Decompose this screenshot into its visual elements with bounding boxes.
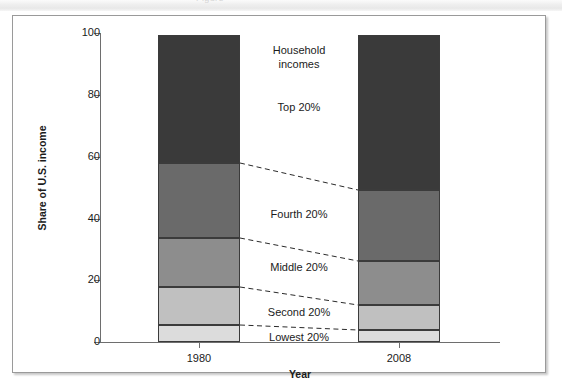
x-axis-title: Year	[100, 368, 500, 380]
series-label-lowest: Lowest 20%	[219, 331, 379, 345]
household-label-line1: Household	[273, 44, 326, 56]
stacked-bar-chart: 100 80 60 40 20 0 Share of U.S. income 1…	[0, 0, 562, 390]
x-tick-1980	[199, 342, 200, 348]
household-label-line2: incomes	[279, 58, 320, 70]
y-axis-line	[100, 33, 101, 343]
y-tick-label-100: 100	[40, 27, 100, 38]
series-label-top: Top 20%	[219, 101, 379, 115]
x-tick-2008	[399, 342, 400, 348]
y-tick-label-40: 40	[40, 213, 100, 224]
y-tick-label-80: 80	[40, 89, 100, 100]
series-label-fourth: Fourth 20%	[219, 208, 379, 222]
household-incomes-label: Household incomes	[219, 44, 379, 71]
x-tick-label-2008: 2008	[359, 352, 439, 364]
bar-segment-1980-fourth-20	[158, 163, 240, 238]
y-tick-label-0: 0	[40, 336, 100, 347]
y-tick-label-60: 60	[40, 151, 100, 162]
connector-middle-second	[240, 287, 358, 305]
bar-segment-2008-fourth-20	[358, 190, 440, 261]
series-label-second: Second 20%	[219, 306, 379, 320]
connector-top-fourth	[240, 163, 358, 190]
series-label-middle: Middle 20%	[219, 261, 379, 275]
y-axis-title: Share of U.S. income	[36, 108, 48, 248]
y-tick-label-20: 20	[40, 274, 100, 285]
connector-second-lowest	[240, 325, 358, 330]
x-tick-label-1980: 1980	[159, 352, 239, 364]
connector-fourth-middle	[240, 238, 358, 261]
